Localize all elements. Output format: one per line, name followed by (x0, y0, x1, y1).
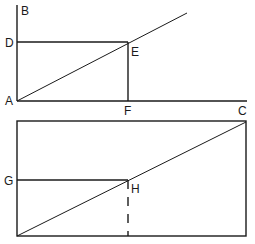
figure-top: B D E A F C (5, 4, 247, 118)
label-e: E (131, 45, 139, 59)
label-d: D (5, 36, 14, 50)
label-h: H (131, 182, 140, 196)
label-f: F (124, 104, 131, 118)
diagonal-line (17, 122, 246, 236)
label-g: G (4, 174, 13, 188)
figure-bottom: G H (4, 121, 246, 236)
diagonal-ae (17, 13, 187, 101)
label-b: B (21, 4, 29, 18)
diagram-canvas: B D E A F C G H (0, 0, 255, 244)
label-c: C (238, 104, 247, 118)
label-a: A (5, 94, 13, 108)
